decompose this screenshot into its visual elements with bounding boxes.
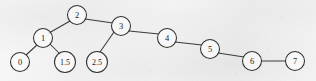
nodes-group: 011.522.534567 <box>11 6 305 73</box>
node-n5: 5 <box>201 40 220 59</box>
edge-n5-n6 <box>218 53 244 57</box>
node-label-n7: 7 <box>293 56 297 66</box>
edge-n2-n3 <box>85 19 113 23</box>
node-n0: 0 <box>11 53 30 72</box>
node-label-n2: 2 <box>75 10 79 20</box>
edge-n1-n1_5 <box>50 44 60 54</box>
paper-speck-2 <box>236 72 237 73</box>
node-label-n6: 6 <box>250 56 254 66</box>
node-label-n5: 5 <box>208 44 212 54</box>
tree-diagram-figure: 011.522.534567 <box>0 0 316 81</box>
paper-speck-3 <box>150 70 151 71</box>
node-label-n1: 1 <box>41 33 45 43</box>
node-n6: 6 <box>243 52 262 71</box>
edge-n1-n0 <box>26 45 37 55</box>
node-label-n2_5: 2.5 <box>92 58 102 67</box>
node-n2_5: 2.5 <box>87 52 108 73</box>
graph-canvas: 011.522.534567 <box>0 0 316 81</box>
paper-speck-4 <box>95 9 96 10</box>
node-label-n1_5: 1.5 <box>60 58 70 67</box>
node-n2: 2 <box>68 6 87 25</box>
edge-n2-n1 <box>49 21 70 33</box>
edge-n4-n5 <box>175 42 202 45</box>
node-label-n3: 3 <box>119 21 123 31</box>
node-n4: 4 <box>158 29 177 48</box>
node-label-n0: 0 <box>18 57 22 67</box>
node-n3: 3 <box>112 17 131 36</box>
node-n1_5: 1.5 <box>55 52 76 73</box>
node-n1: 1 <box>34 29 53 48</box>
edge-n3-n4 <box>129 31 159 34</box>
node-n7: 7 <box>286 52 305 71</box>
edge-n3-n2_5 <box>100 32 114 52</box>
